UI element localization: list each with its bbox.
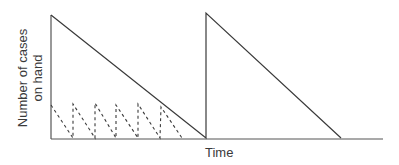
dashed-sawtooth-line [51, 103, 182, 138]
x-axis-label: Time [205, 145, 233, 160]
y-axis-label: Number of cases on hand [15, 29, 45, 127]
plot-area [0, 0, 399, 165]
inventory-sawtooth-figure: Number of cases on hand Time [0, 0, 399, 165]
y-axis-label-line1: Number of cases [15, 29, 30, 127]
y-axis-label-line2: on hand [30, 29, 45, 127]
